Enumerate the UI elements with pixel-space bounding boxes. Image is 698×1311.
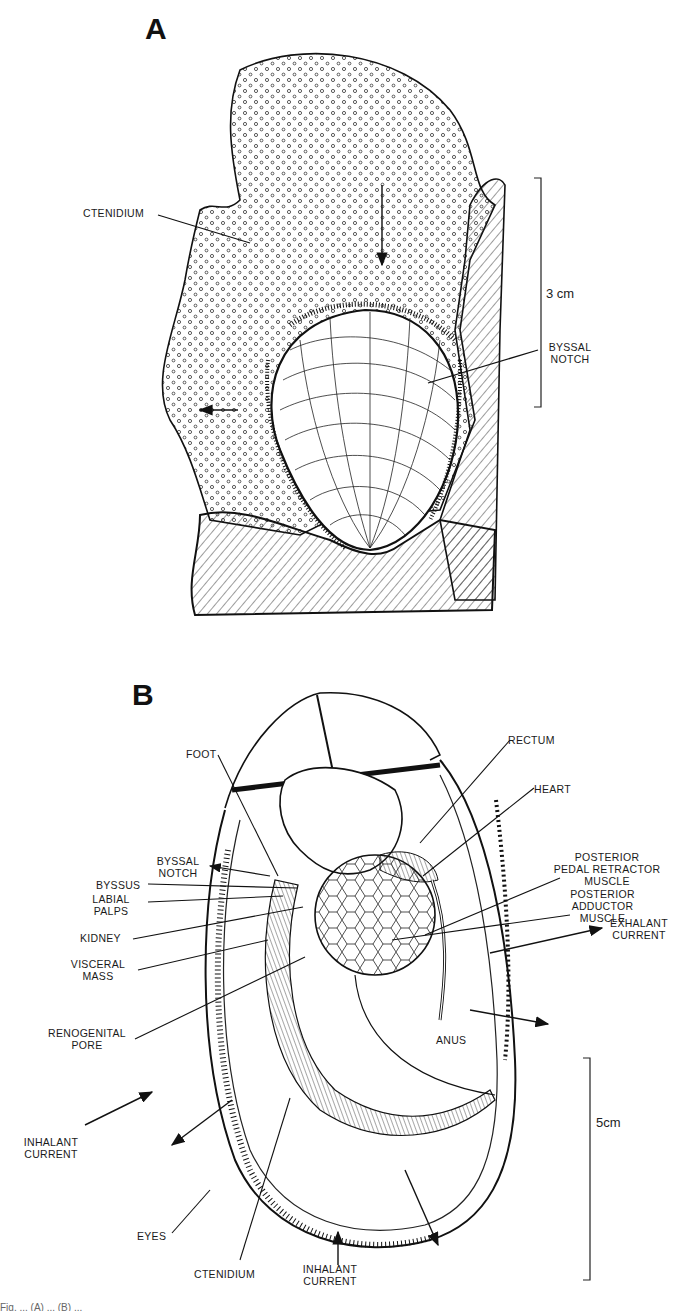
label-ctenidium-a: CTENIDIUM xyxy=(83,207,144,219)
label-byssal-notch-a: BYSSAL NOTCH xyxy=(540,341,600,365)
label-renogenital-pore: RENOGENITAL PORE xyxy=(44,1027,130,1051)
label-byssus: BYSSUS xyxy=(96,879,140,891)
label-inhalant-current-bottom: INHALANT CURRENT xyxy=(294,1263,366,1287)
label-visceral-line2: MASS xyxy=(66,970,130,982)
label-exhalant-current: EXHALANT CURRENT xyxy=(604,917,674,941)
label-byssal-notch-b: BYSSAL NOTCH xyxy=(150,855,206,879)
label-exhalant-line2: CURRENT xyxy=(604,929,674,941)
scale-label-5cm: 5cm xyxy=(596,1115,621,1130)
label-inhalant-current-left: INHALANT CURRENT xyxy=(18,1136,84,1160)
label-byssal-notch-a-line2: NOTCH xyxy=(540,353,600,365)
label-exhalant-line1: EXHALANT xyxy=(604,917,674,929)
panel-a-letter: A xyxy=(145,12,167,46)
label-byssal-notch-a-line1: BYSSAL xyxy=(540,341,600,353)
label-posterior-pedal-retractor: POSTERIOR PEDAL RETRACTOR MUSCLE xyxy=(547,851,667,887)
label-visceral-mass: VISCERAL MASS xyxy=(66,958,130,982)
label-inhalant-bottom-line1: INHALANT xyxy=(294,1263,366,1275)
panel-b-drawing xyxy=(85,693,602,1280)
figure-caption-cropped: Fig. ... (A) ... (B) ... xyxy=(0,1302,698,1311)
label-labial-palps-line2: PALPS xyxy=(86,905,136,917)
label-renogenital-line2: PORE xyxy=(44,1039,130,1051)
label-heart: HEART xyxy=(534,783,571,795)
label-post-adductor-line2: ADDUCTOR xyxy=(560,900,645,912)
label-labial-palps: LABIAL PALPS xyxy=(86,893,136,917)
panel-a-drawing xyxy=(158,54,541,615)
label-inhalant-left-line2: CURRENT xyxy=(18,1148,84,1160)
label-rectum: RECTUM xyxy=(508,734,555,746)
label-post-pedal-line3: MUSCLE xyxy=(547,875,667,887)
scale-label-3cm: 3 cm xyxy=(546,286,574,301)
label-post-pedal-line1: POSTERIOR xyxy=(547,851,667,863)
label-renogenital-line1: RENOGENITAL xyxy=(44,1027,130,1039)
panel-b-letter: B xyxy=(132,678,154,712)
label-anus: ANUS xyxy=(436,1034,466,1046)
label-inhalant-left-line1: INHALANT xyxy=(18,1136,84,1148)
label-visceral-line1: VISCERAL xyxy=(66,958,130,970)
figure-drawing xyxy=(0,0,698,1311)
label-kidney: KIDNEY xyxy=(80,932,121,944)
label-foot: FOOT xyxy=(186,748,216,760)
label-inhalant-bottom-line2: CURRENT xyxy=(294,1275,366,1287)
label-eyes: EYES xyxy=(137,1230,166,1242)
label-post-pedal-line2: PEDAL RETRACTOR xyxy=(547,863,667,875)
label-byssal-notch-b-line2: NOTCH xyxy=(150,867,206,879)
label-post-adductor-line1: POSTERIOR xyxy=(560,888,645,900)
label-ctenidium-b: CTENIDIUM xyxy=(194,1268,255,1280)
label-labial-palps-line1: LABIAL xyxy=(86,893,136,905)
label-byssal-notch-b-line1: BYSSAL xyxy=(150,855,206,867)
